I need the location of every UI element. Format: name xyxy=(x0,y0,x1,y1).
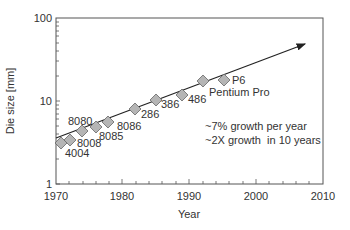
die-size-chart: 100 10 1 1970 1980 1990 2000 2010 Year D… xyxy=(0,0,350,230)
x-axis-title: Year xyxy=(178,208,201,220)
label-8008: 8008 xyxy=(77,137,101,149)
x-axis-ticks xyxy=(69,179,309,184)
x-tick-2000: 2000 xyxy=(244,190,268,202)
y-axis-title: Die size [mm] xyxy=(4,68,16,135)
label-286: 286 xyxy=(141,108,159,120)
label-8080: 8080 xyxy=(68,115,92,127)
y-tick-10: 10 xyxy=(40,95,52,107)
y-tick-100: 100 xyxy=(34,12,52,24)
x-tick-1980: 1980 xyxy=(110,190,134,202)
annotation-growth-10-years: ~2X growth in 10 years xyxy=(205,134,321,146)
label-pentium-pro: Pentium Pro xyxy=(209,86,270,98)
label-386: 386 xyxy=(161,98,179,110)
point-8086 xyxy=(102,116,114,128)
x-tick-1970: 1970 xyxy=(44,190,68,202)
y-tick-1: 1 xyxy=(46,178,52,190)
point-pentium-pro xyxy=(197,75,209,87)
x-tick-1990: 1990 xyxy=(177,190,201,202)
x-tick-2010: 2010 xyxy=(311,190,335,202)
y-axis-ticks xyxy=(56,22,60,184)
annotation-growth-per-year: ~7% growth per year xyxy=(205,120,307,132)
point-286 xyxy=(129,103,141,115)
label-8086: 8086 xyxy=(117,120,141,132)
label-p6: P6 xyxy=(232,74,245,86)
label-486: 486 xyxy=(188,93,206,105)
